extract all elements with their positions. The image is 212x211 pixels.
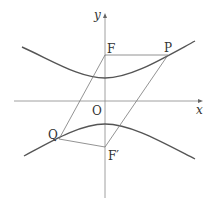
y-axis-arrow-icon <box>103 13 107 18</box>
segment-FprimeQ <box>59 139 105 147</box>
hyperbola-diagram: y x O F P Q F′ <box>0 0 212 211</box>
point-Q-label: Q <box>48 128 58 142</box>
origin-label: O <box>92 104 102 118</box>
x-axis-label: x <box>196 103 203 117</box>
y-axis-label: y <box>93 8 101 22</box>
point-P-label: P <box>164 41 172 55</box>
point-F-label: F <box>107 42 115 56</box>
point-Fprime-label: F′ <box>108 149 119 163</box>
